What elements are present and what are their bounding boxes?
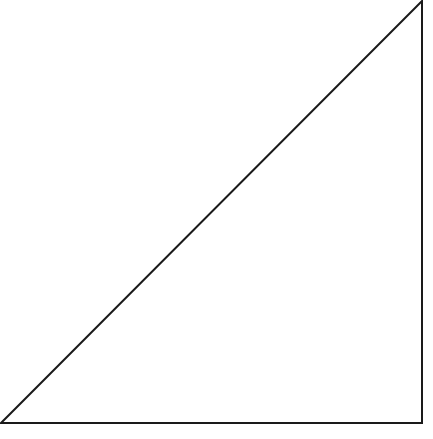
clipped-caption bbox=[70, 431, 270, 439]
right-triangle bbox=[1, 1, 422, 423]
triangle-diagram bbox=[0, 0, 433, 439]
